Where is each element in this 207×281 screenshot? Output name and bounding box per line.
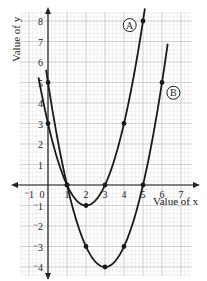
x-tick-label: 2 (84, 189, 89, 200)
data-point (103, 265, 108, 270)
y-tick-label: ⁻3 (33, 242, 43, 253)
y-tick-label: 8 (38, 16, 43, 27)
curve-label-a: A (126, 20, 134, 31)
x-tick-label: 0 (40, 189, 45, 200)
x-tick-label: 4 (122, 189, 127, 200)
data-point (141, 183, 146, 188)
y-tick-label: 1 (38, 160, 43, 171)
y-axis-arrow-up-icon (45, 7, 51, 14)
y-axis-label: Value of y (10, 16, 22, 62)
data-point (46, 121, 51, 126)
data-point (84, 203, 89, 208)
x-axis-arrow-right-icon (193, 182, 200, 188)
data-point (65, 183, 70, 188)
y-tick-label: 7 (38, 37, 43, 48)
quadratic-graph: ⁻10123456787654321⁻1⁻2⁻3⁻4 AB Value of x… (0, 0, 207, 281)
data-point (141, 19, 146, 24)
x-tick-label: 3 (103, 189, 108, 200)
curve-b (46, 44, 168, 267)
data-point (160, 80, 165, 85)
y-tick-label: ⁻2 (33, 221, 43, 232)
x-axis-arrow-left-icon (11, 182, 18, 188)
y-tick-label: ⁻1 (33, 201, 43, 212)
curve-label-b: B (170, 87, 177, 98)
data-point (84, 244, 89, 249)
data-point (46, 80, 51, 85)
y-tick-label: 2 (38, 139, 43, 150)
x-tick-label: ⁻1 (24, 189, 34, 200)
y-tick-label: 6 (38, 57, 43, 68)
data-point (122, 121, 127, 126)
y-tick-label: 3 (38, 119, 43, 130)
y-tick-label: ⁻4 (33, 262, 43, 273)
data-point (122, 244, 127, 249)
x-axis-label: Value of x (153, 195, 199, 207)
data-point (103, 183, 108, 188)
y-axis-arrow-down-icon (45, 273, 51, 280)
